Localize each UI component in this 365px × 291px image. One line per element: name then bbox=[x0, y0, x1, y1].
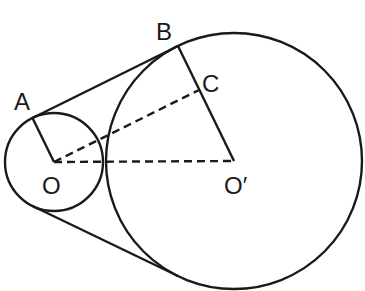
upper-tangent-AB bbox=[33, 46, 179, 118]
label-A: A bbox=[14, 88, 30, 115]
radius-OprimeB bbox=[178, 46, 234, 161]
label-O: O bbox=[42, 172, 61, 199]
dashed-OC bbox=[54, 90, 199, 162]
label-B: B bbox=[156, 18, 172, 45]
label-C: C bbox=[202, 70, 219, 97]
dashed-OOprime bbox=[54, 161, 234, 162]
tangent-circles-diagram: A B C O O′ bbox=[0, 0, 365, 291]
label-O-prime: O′ bbox=[224, 172, 248, 199]
radius-OA bbox=[33, 118, 55, 162]
lower-tangent bbox=[33, 206, 179, 276]
